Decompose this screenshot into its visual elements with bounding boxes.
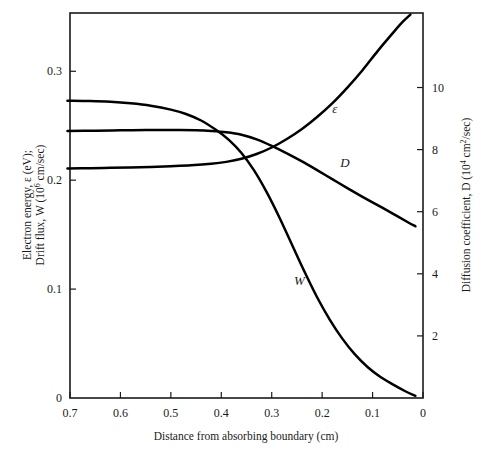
y-axis-right-title-c: /sec) <box>460 118 473 140</box>
x-axis-tick-labels: 0.70.60.50.40.30.20.10 <box>63 406 427 420</box>
curve-W <box>67 101 415 396</box>
x-tick-label: 0.3 <box>264 406 279 420</box>
chart-svg: 0.70.60.50.40.30.20.10 00.10.20.3 246810… <box>0 0 485 455</box>
y-right-tick-label: 4 <box>432 267 438 281</box>
y-axis-left-title-line2-b: cm/sec) <box>34 144 47 183</box>
plot-frame <box>70 13 423 398</box>
data-curves <box>67 15 415 396</box>
x-tick-label: 0.7 <box>63 406 78 420</box>
curve-label-W: W <box>294 273 306 288</box>
y-axis-left-title-line2-a: Drift flux, W (10 <box>34 187 47 265</box>
x-tick-label: 0.1 <box>365 406 380 420</box>
x-tick-label: 0.6 <box>113 406 128 420</box>
curve-D <box>67 130 415 226</box>
x-tick-label: 0.2 <box>315 406 330 420</box>
y-right-tick-label: 10 <box>432 81 444 95</box>
curve-e <box>67 15 410 169</box>
x-tick-label: 0.4 <box>214 406 229 420</box>
y-left-tick-label: 0 <box>56 391 62 405</box>
y-axis-left-title-line2: Drift flux, W (106 cm/sec) <box>33 144 47 265</box>
x-tick-label: 0 <box>420 406 426 420</box>
figure-container: 0.70.60.50.40.30.20.10 00.10.20.3 246810… <box>0 0 485 455</box>
y-axis-right-title-a: Diffusion coefficient, D (10 <box>460 164 473 292</box>
y-axis-left-ticks <box>70 71 76 289</box>
x-axis-title: Distance from absorbing boundary (cm) <box>154 430 339 443</box>
curve-label-D: D <box>339 155 350 170</box>
y-left-tick-label: 0.2 <box>47 173 62 187</box>
y-axis-right-title: Diffusion coefficient, D (104 cm2/sec) <box>459 118 473 293</box>
x-axis-ticks <box>70 392 423 398</box>
y-left-tick-label: 0.3 <box>47 64 62 78</box>
curve-label-e: ε <box>332 101 338 116</box>
x-tick-label: 0.5 <box>163 406 178 420</box>
y-axis-right-tick-labels: 246810 <box>432 81 444 343</box>
y-right-tick-label: 2 <box>432 329 438 343</box>
y-left-tick-label: 0.1 <box>47 282 62 296</box>
y-axis-right-ticks <box>417 88 423 336</box>
y-axis-right-title-b: cm <box>460 143 472 160</box>
y-axis-left-title-line1: Electron energy, ε (eV); <box>21 150 34 260</box>
y-right-tick-label: 8 <box>432 143 438 157</box>
y-right-tick-label: 6 <box>432 205 438 219</box>
y-axis-left-tick-labels: 00.10.20.3 <box>47 64 62 405</box>
